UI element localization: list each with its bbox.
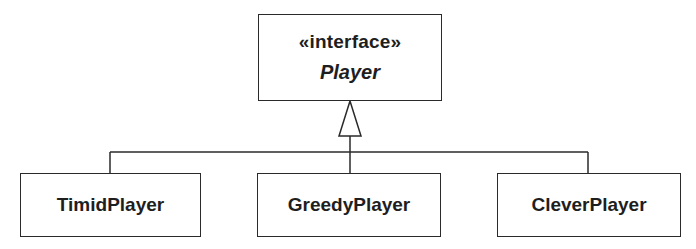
class-name: TimidPlayer xyxy=(57,194,164,216)
interface-stereotype: «interface» xyxy=(299,31,402,53)
class-greedy-player-box: GreedyPlayer xyxy=(257,173,441,237)
interface-name: Player xyxy=(320,61,380,84)
interface-player-box: «interface» Player xyxy=(258,14,442,101)
class-timid-player-box: TimidPlayer xyxy=(20,173,201,237)
realization-arrowhead-icon xyxy=(339,101,361,136)
class-clever-player-box: CleverPlayer xyxy=(497,173,681,237)
class-name: CleverPlayer xyxy=(531,194,646,216)
class-name: GreedyPlayer xyxy=(288,194,411,216)
